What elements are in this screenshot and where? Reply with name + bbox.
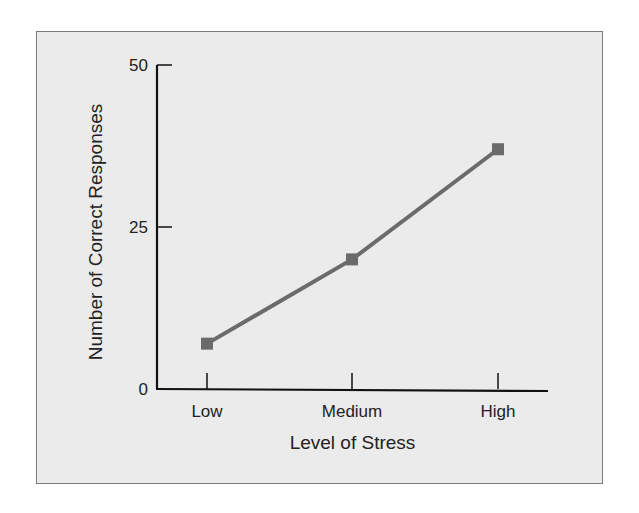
x-tick-label: Low (191, 402, 223, 421)
axes (156, 65, 548, 391)
data-series (201, 143, 504, 349)
x-axis-line (156, 389, 548, 391)
x-axis-title: Level of Stress (290, 432, 416, 453)
data-point-marker (201, 338, 213, 350)
y-tick-label: 50 (129, 56, 148, 75)
x-tick-label: Medium (322, 402, 382, 421)
line-chart: 02550LowMediumHighLevel of StressNumber … (0, 0, 639, 513)
series-line (207, 149, 498, 343)
axis-labels: 02550LowMediumHighLevel of StressNumber … (85, 56, 515, 453)
data-point-marker (492, 143, 504, 155)
y-tick-label: 25 (129, 218, 148, 237)
y-axis-title: Number of Correct Responses (85, 104, 106, 361)
data-point-marker (346, 253, 358, 265)
x-tick-label: High (481, 402, 516, 421)
y-tick-label: 0 (139, 380, 148, 399)
